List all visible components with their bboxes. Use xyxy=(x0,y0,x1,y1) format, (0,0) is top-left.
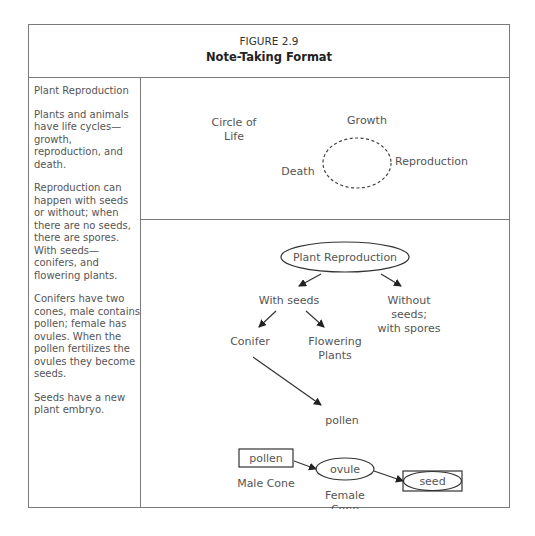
label-death: Death xyxy=(281,165,314,178)
with-seeds-label: With seeds xyxy=(259,294,320,307)
root-label: Plant Reproduction xyxy=(293,251,397,264)
concept-map-panel: Plant Reproduction With seeds Without se… xyxy=(141,219,509,507)
flowering-line2: Plants xyxy=(318,349,352,362)
female-cone-line1: Female xyxy=(325,489,365,502)
life-cycle-dashed-circle xyxy=(323,138,391,188)
label-growth: Growth xyxy=(347,114,387,127)
without-seeds-line3: with spores xyxy=(377,322,440,335)
circle-of-life-diagram: Circle of Life Growth Reproduction Death xyxy=(141,77,511,219)
figure-frame: FIGURE 2.9 Note-Taking Format Plant Repr… xyxy=(28,24,510,508)
notes-paragraph: Seeds have a new plant embryo. xyxy=(34,392,140,417)
concept-map-diagram: Plant Reproduction With seeds Without se… xyxy=(141,219,511,509)
circle-title-line1: Circle of xyxy=(212,116,258,129)
male-cone-label: Male Cone xyxy=(237,477,295,490)
label-reproduction: Reproduction xyxy=(395,155,468,168)
notes-paragraph: Conifers have two cones, male contains p… xyxy=(34,293,140,381)
without-seeds-line2: seeds; xyxy=(391,308,427,321)
conifer-label: Conifer xyxy=(230,335,270,348)
notes-heading: Plant Reproduction xyxy=(34,85,140,98)
figure-header: FIGURE 2.9 Note-Taking Format xyxy=(29,25,509,78)
female-cone-line2: Cone xyxy=(331,503,359,509)
without-seeds-line1: Without xyxy=(388,294,432,307)
notes-column: Plant Reproduction Plants and animals ha… xyxy=(29,77,141,507)
arrow-with-seeds-to-flowering xyxy=(306,311,324,327)
arrow-root-to-with-seeds xyxy=(299,274,321,286)
arrow-with-seeds-to-conifer xyxy=(259,311,276,327)
figure-title: Note-Taking Format xyxy=(29,50,509,64)
circle-title-line2: Life xyxy=(224,130,244,143)
arrow-ovule-to-seed xyxy=(374,471,403,481)
arrow-conifer-to-pollen xyxy=(253,357,321,405)
flowering-line1: Flowering xyxy=(308,335,361,348)
arrow-pollen-to-ovule xyxy=(294,461,316,469)
pollen-box-label: pollen xyxy=(249,452,283,465)
notes-paragraph: Reproduction can happen with seeds or wi… xyxy=(34,182,140,282)
circle-of-life-panel: Circle of Life Growth Reproduction Death xyxy=(141,77,509,220)
ovule-label: ovule xyxy=(330,463,360,476)
figure-number: FIGURE 2.9 xyxy=(29,35,509,47)
arrow-root-to-without-seeds xyxy=(381,274,401,286)
notes-paragraph: Plants and animals have life cycles—grow… xyxy=(34,109,140,172)
pollen-label: pollen xyxy=(325,414,359,427)
seed-label: seed xyxy=(419,475,445,488)
